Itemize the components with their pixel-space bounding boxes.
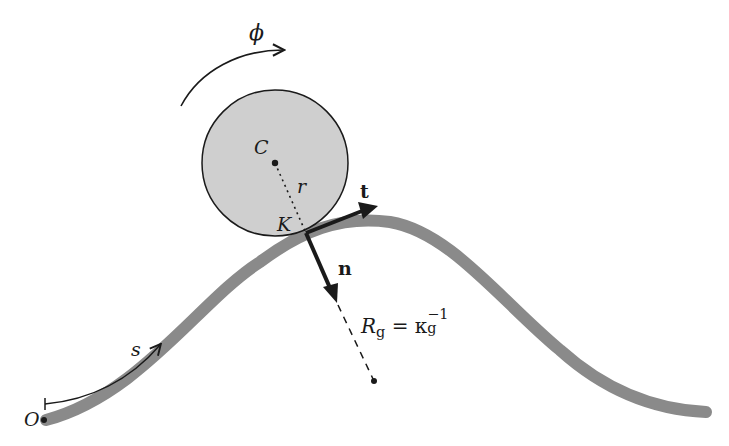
tangent-label: t xyxy=(360,182,369,201)
equals-sign: = xyxy=(392,314,409,338)
origin-point xyxy=(41,417,47,423)
normal-vector xyxy=(306,233,338,303)
radius-label: r xyxy=(297,177,306,196)
rolling-disk-diagram: ϕ C r K t n O s Rg = κ−1g xyxy=(0,0,729,446)
kappa-subscript: g xyxy=(427,321,436,335)
diagram-graphics xyxy=(0,0,729,446)
kappa-symbol: κ xyxy=(415,314,428,338)
center-point xyxy=(272,160,278,166)
radius-subscript: g xyxy=(376,324,385,340)
radius-of-curvature-label: Rg = κ−1g xyxy=(361,313,447,340)
arclength-label: s xyxy=(131,340,141,359)
curvature-center-point xyxy=(371,378,377,384)
normal-label: n xyxy=(338,259,352,278)
center-label: C xyxy=(254,138,269,157)
phi-label: ϕ xyxy=(249,22,264,44)
origin-label: O xyxy=(24,410,40,429)
contact-label: K xyxy=(277,215,291,234)
radius-symbol: R xyxy=(361,314,376,338)
